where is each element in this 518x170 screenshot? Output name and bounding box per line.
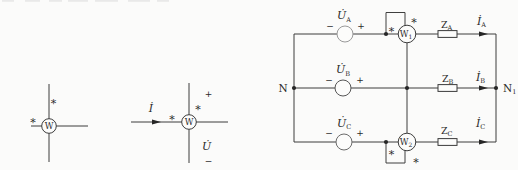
impedance-c-label: ZC [441, 125, 453, 138]
impedance-c-box [438, 139, 457, 146]
node-common-junction-dot [405, 86, 409, 90]
three-phase-circuit: W1 W2 N N1 U̇A − + U̇B − + U̇C − + ZA ZB… [278, 9, 516, 169]
meter2-voltage-polarity-asterisk: * [195, 103, 201, 116]
source-a-plus: + [357, 21, 365, 31]
impedance-b-label: ZB [442, 73, 454, 86]
source-c-label: U̇C [337, 116, 351, 131]
meter2-current-arrow [152, 119, 161, 124]
meter2-label: W [185, 117, 194, 127]
source-a-minus: − [326, 21, 334, 31]
current-b-label: İB [475, 70, 485, 86]
meter2-current-polarity-asterisk: * [169, 113, 175, 126]
meter1-current-polarity-asterisk: * [30, 116, 36, 129]
meter2-minus-sign: − [205, 156, 213, 166]
source-c-circle [336, 134, 352, 150]
wattmeter2-voltage-polarity-asterisk: * [413, 156, 419, 169]
source-b-minus: − [325, 75, 333, 85]
wattmeter-symbol-basic: W * * [30, 84, 88, 162]
source-c-plus: + [356, 128, 364, 138]
wattmeter1-current-polarity-asterisk: * [389, 25, 395, 38]
circuit-figure-svg: W * * W İ * * + U̇ − W1 W2 [0, 0, 518, 170]
current-b-arrow [479, 86, 488, 91]
impedance-a-label: ZA [441, 19, 453, 32]
meter1-voltage-polarity-asterisk: * [51, 97, 57, 110]
impedance-a-box [438, 31, 457, 38]
source-a-circle [337, 26, 353, 42]
source-b-label: U̇B [336, 63, 350, 78]
node-phase-c-tap-dot [384, 140, 388, 144]
wattmeter2-current-polarity-asterisk: * [389, 148, 395, 161]
source-b-circle [335, 80, 351, 96]
node-n1-label: N1 [503, 82, 516, 96]
source-b-plus: + [356, 75, 364, 85]
current-c-label: İC [475, 116, 485, 132]
meter2-current-symbol: İ [148, 101, 154, 115]
meter2-plus-sign: + [205, 89, 213, 99]
figure-canvas: W * * W İ * * + U̇ − W1 W2 [0, 0, 518, 170]
meter2-voltage-symbol: U̇ [202, 140, 212, 153]
current-a-arrow [479, 32, 488, 37]
wattmeter-symbol-labeled: W İ * * + U̇ − [131, 83, 228, 166]
node-n-label: N [278, 82, 287, 94]
current-c-arrow [479, 140, 488, 145]
impedance-b-box [438, 85, 457, 92]
meter1-label: W [45, 121, 54, 131]
source-a-label: U̇A [337, 9, 351, 24]
node-n-dot [292, 86, 296, 90]
node-n1-dot [494, 86, 498, 90]
current-a-label: İA [476, 14, 486, 30]
wattmeter1-voltage-polarity-asterisk: * [411, 16, 417, 29]
scan-artifact [2, 0, 169, 2]
source-c-minus: − [325, 128, 333, 138]
node-phase-a-tap-dot [384, 32, 388, 36]
